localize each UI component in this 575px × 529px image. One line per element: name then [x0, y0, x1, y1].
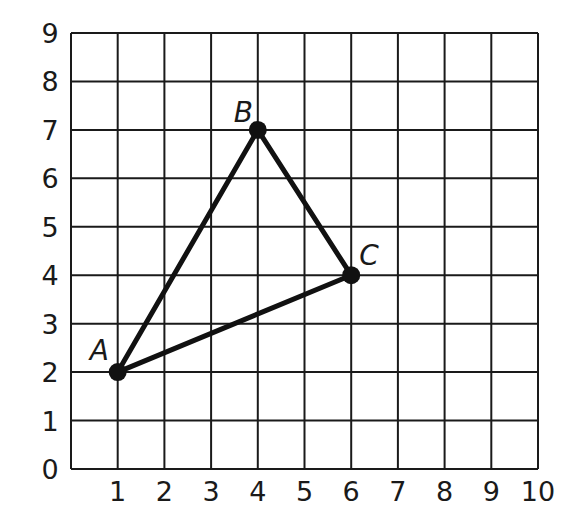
- point-label-b: B: [234, 96, 253, 129]
- point-a: [109, 363, 127, 381]
- x-tick-label: 3: [203, 476, 220, 507]
- grid-lines: [71, 33, 538, 469]
- x-tick-label: 2: [156, 476, 173, 507]
- vertex-points: ABC: [88, 96, 380, 381]
- y-tick-label: 4: [41, 260, 58, 291]
- point-label-a: A: [88, 334, 109, 367]
- point-label-c: C: [359, 239, 379, 272]
- x-tick-label: 10: [521, 476, 555, 507]
- y-tick-label: 9: [41, 18, 58, 49]
- x-tick-label: 7: [389, 476, 406, 507]
- y-tick-label: 2: [41, 357, 58, 388]
- y-tick-label: 8: [41, 66, 58, 97]
- y-tick-label: 1: [41, 406, 58, 437]
- y-tick-label: 6: [41, 163, 58, 194]
- point-c: [342, 266, 360, 284]
- x-tick-label: 9: [483, 476, 500, 507]
- triangle-abc: [118, 130, 352, 372]
- y-tick-label: 0: [41, 454, 58, 485]
- segment-ab: [118, 130, 258, 372]
- x-tick-label: 8: [436, 476, 453, 507]
- x-tick-label: 5: [296, 476, 313, 507]
- y-tick-label: 3: [41, 309, 58, 340]
- y-tick-label: 7: [41, 115, 58, 146]
- x-tick-label: 4: [249, 476, 266, 507]
- y-tick-label: 5: [41, 212, 58, 243]
- y-axis-ticks: 0123456789: [41, 18, 58, 485]
- x-tick-label: 1: [109, 476, 126, 507]
- x-tick-label: 6: [343, 476, 360, 507]
- x-axis-ticks: 12345678910: [109, 476, 555, 507]
- coordinate-grid: 0123456789 12345678910 ABC: [0, 0, 575, 529]
